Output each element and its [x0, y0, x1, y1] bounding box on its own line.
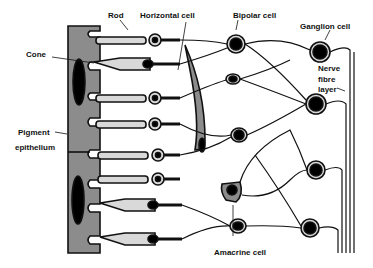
- ganglion-cell: [306, 94, 326, 114]
- label-pigment-epithelium-1: Pigment: [18, 128, 50, 137]
- horizontal-cell: [185, 45, 205, 150]
- label-horizontal-cell: Horizontal cell: [140, 11, 195, 20]
- label-rod: Rod: [108, 11, 124, 20]
- rod: [98, 149, 164, 161]
- cone: [100, 199, 158, 211]
- melanin-granule: [72, 176, 84, 224]
- bipolar-cell: [226, 74, 240, 84]
- melanin-granule: [73, 59, 85, 105]
- rod: [96, 118, 161, 130]
- rod: [98, 173, 164, 185]
- rod: [96, 92, 161, 104]
- cone: [100, 233, 158, 245]
- label-nerve-fibre-layer-3: layer: [318, 85, 337, 94]
- ganglion-cell: [301, 219, 319, 237]
- label-nerve-fibre-layer-1: Nerve: [318, 64, 340, 73]
- bipolar-cell: [231, 128, 247, 142]
- ganglion-cell: [307, 161, 325, 179]
- label-amacrine-cell: Amacrine cell: [214, 248, 266, 257]
- bipolar-cell: [230, 219, 246, 233]
- label-cone: Cone: [26, 50, 46, 59]
- label-pigment-epithelium-2: epithelium: [15, 143, 55, 152]
- cone: [94, 58, 153, 70]
- bipolar-cell: [227, 35, 245, 53]
- label-ganglion-cell: Ganglion cell: [300, 22, 350, 31]
- ganglion-cell: [310, 42, 330, 62]
- retina-diagram: [0, 0, 373, 268]
- rod: [96, 34, 161, 46]
- label-nerve-fibre-layer-2: fibre: [318, 75, 335, 84]
- label-bipolar-cell: Bipolar cell: [233, 11, 276, 20]
